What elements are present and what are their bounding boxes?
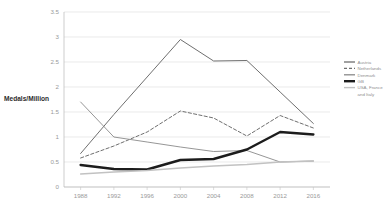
y-tick-label: 2.5 (50, 58, 59, 65)
legend-label: Denmark (358, 73, 377, 78)
legend-label: Netherlands (358, 66, 382, 71)
x-tick-label: 2012 (273, 192, 287, 199)
legend-label: USA, France (358, 85, 384, 90)
y-tick-label: 0.5 (50, 158, 59, 165)
x-tick-label: 2004 (207, 192, 221, 199)
x-tick-label: 2000 (173, 192, 187, 199)
medals-per-million-line-chart: 00.511.522.533.5 19881992199620002004200… (0, 0, 392, 210)
y-tick-label: 1 (56, 133, 60, 140)
y-tick-label: 0 (56, 183, 60, 190)
legend-label: and Italy (358, 92, 375, 97)
y-tick-label: 3.5 (50, 8, 59, 15)
chart-background (0, 0, 392, 210)
legend-label: Austria (358, 60, 372, 65)
x-tick-label: 2016 (306, 192, 320, 199)
legend-label: GB (358, 79, 364, 84)
x-tick-label: 1996 (140, 192, 154, 199)
y-tick-label: 2 (56, 83, 60, 90)
x-tick-label: 2008 (240, 192, 254, 199)
chart-canvas: 00.511.522.533.5 19881992199620002004200… (0, 0, 392, 210)
x-tick-label: 1988 (74, 192, 88, 199)
x-tick-label: 1992 (107, 192, 121, 199)
y-axis-title: Medals/Million (4, 95, 49, 102)
y-tick-label: 3 (56, 33, 60, 40)
y-tick-label: 1.5 (50, 108, 59, 115)
